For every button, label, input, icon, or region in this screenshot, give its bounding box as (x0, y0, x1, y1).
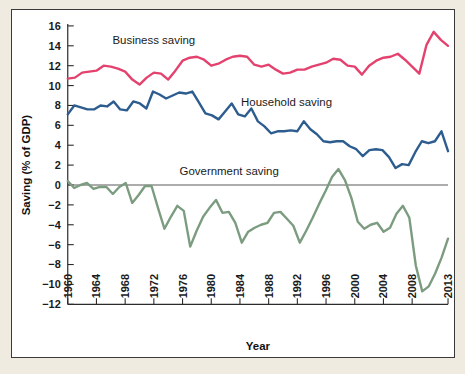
x-tick-label: 2013 (442, 274, 454, 298)
series-label-government-saving: Government saving (180, 165, 279, 177)
y-tick-label: 6 (55, 119, 61, 131)
y-axis-ticks: 1614121086420−2−4−6−8−10−12 (42, 20, 74, 310)
series-label-household-saving: Household saving (241, 96, 332, 108)
data-series-group (68, 32, 448, 292)
series-label-business-saving: Business saving (112, 34, 195, 46)
x-tick-label: 1964 (90, 273, 102, 298)
y-tick-label: 0 (55, 179, 61, 191)
x-tick-label: 2008 (406, 274, 418, 298)
figure-root: 1614121086420−2−4−6−8−10−12 196019641968… (0, 0, 465, 374)
y-tick-label: 4 (55, 139, 62, 151)
y-tick-label: −4 (48, 219, 61, 231)
y-tick-label: −2 (48, 199, 60, 211)
y-tick-label: 10 (49, 80, 61, 92)
x-tick-label: 1980 (205, 274, 217, 298)
y-tick-label: −10 (42, 278, 61, 290)
y-tick-label: 14 (49, 40, 62, 52)
x-tick-label: 2000 (349, 274, 361, 298)
x-tick-label: 1988 (263, 274, 275, 298)
y-tick-label: 2 (55, 159, 61, 171)
x-tick-label: 1984 (234, 273, 246, 298)
x-tick-label: 1968 (119, 274, 131, 298)
x-tick-label: 1976 (177, 274, 189, 298)
x-tick-label: 1996 (320, 274, 332, 298)
x-tick-label: 1992 (291, 274, 303, 298)
savings-line-chart: 1614121086420−2−4−6−8−10−12 196019641968… (12, 10, 454, 357)
y-tick-label: 16 (49, 20, 61, 32)
y-tick-label: 8 (55, 99, 61, 111)
y-axis-title: Saving (% of GDP) (20, 115, 32, 216)
chart-panel: 1614121086420−2−4−6−8−10−12 196019641968… (11, 9, 455, 358)
y-tick-label: −8 (48, 259, 60, 271)
series-line-government-saving (68, 169, 448, 291)
series-label-group: Business savingHousehold savingGovernmen… (112, 34, 332, 177)
y-tick-label: 12 (49, 60, 61, 72)
x-axis-ticks: 1960196419681972197619801984198819921996… (62, 273, 454, 304)
x-axis-title: Year (246, 340, 271, 352)
y-tick-label: −12 (42, 298, 61, 310)
x-tick-label: 1972 (148, 274, 160, 298)
y-tick-label: −6 (48, 239, 60, 251)
x-tick-label: 2004 (377, 273, 389, 298)
